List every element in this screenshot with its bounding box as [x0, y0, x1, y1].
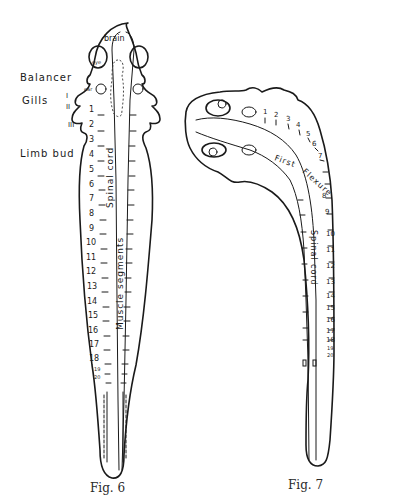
fig7-neural-tube-outer — [196, 118, 316, 460]
svg-text:17: 17 — [326, 327, 335, 335]
fig7-ear-upper — [242, 107, 256, 117]
fig7-lens-lower — [209, 148, 217, 156]
embryo-diagram: I II III brain eye ear 123 456 789 10111… — [0, 0, 399, 503]
svg-text:11: 11 — [86, 253, 96, 262]
svg-text:4: 4 — [89, 150, 94, 159]
svg-text:6: 6 — [89, 180, 94, 189]
svg-text:18: 18 — [326, 336, 335, 344]
fig7-label-first: First — [273, 153, 297, 169]
fig6-label-brain: brain — [104, 34, 125, 43]
fig6-label-limb-bud: Limb bud — [20, 148, 75, 159]
svg-text:9: 9 — [325, 208, 329, 216]
svg-text:3: 3 — [89, 135, 94, 144]
svg-text:17: 17 — [89, 340, 99, 349]
fig7-eye-lower — [202, 143, 226, 157]
svg-text:7: 7 — [318, 152, 322, 160]
svg-text:20: 20 — [327, 352, 333, 358]
svg-text:12: 12 — [326, 262, 335, 270]
fig6-label-ear: ear — [84, 86, 93, 92]
svg-text:10: 10 — [326, 230, 335, 238]
fig7-caption: Fig. 7 — [288, 478, 323, 492]
svg-text:1: 1 — [89, 105, 94, 114]
svg-text:9: 9 — [89, 224, 94, 233]
fig6-gill-numeral-1: I — [66, 92, 68, 100]
svg-text:11: 11 — [326, 246, 335, 254]
svg-text:4: 4 — [296, 121, 301, 129]
svg-text:20: 20 — [94, 374, 100, 380]
fig6-label-gills: Gills — [22, 95, 48, 106]
svg-text:2: 2 — [274, 111, 278, 119]
fig7-segment-ticks — [265, 118, 334, 340]
fig6-ear-right — [133, 84, 143, 94]
svg-text:7: 7 — [89, 194, 94, 203]
fig6-caption: Fig. 6 — [90, 481, 125, 495]
fig6-tail-segments — [104, 392, 126, 462]
svg-text:6: 6 — [312, 140, 317, 148]
svg-text:19: 19 — [94, 366, 100, 372]
svg-text:12: 12 — [86, 267, 96, 276]
fig6-gill-numeral-3: III — [68, 121, 74, 129]
fig7-tail-marker-left — [303, 360, 306, 366]
svg-text:16: 16 — [88, 326, 98, 335]
svg-text:14: 14 — [326, 292, 335, 300]
svg-text:3: 3 — [286, 115, 290, 123]
fig6-label-spinal-cord: Spinal cord — [105, 147, 115, 208]
svg-text:16: 16 — [326, 316, 335, 324]
fig6-ear-left — [96, 84, 106, 94]
svg-text:5: 5 — [306, 130, 310, 138]
fig7-label-spinal-cord: Spinal cord — [309, 230, 318, 286]
fig6-gill-numeral-2: II — [66, 103, 70, 111]
svg-text:8: 8 — [89, 209, 94, 218]
fig7-tail-marker-right — [313, 360, 316, 366]
fig6-label-balancer: Balancer — [20, 72, 72, 83]
svg-text:19: 19 — [327, 345, 333, 351]
svg-text:10: 10 — [86, 238, 96, 247]
fig6-label-eye: eye — [92, 59, 101, 66]
svg-text:13: 13 — [87, 282, 97, 291]
svg-text:2: 2 — [89, 120, 94, 129]
svg-text:1: 1 — [263, 108, 267, 116]
fig7-neural-tube-inner — [196, 132, 309, 460]
svg-text:13: 13 — [326, 278, 335, 286]
svg-text:5: 5 — [89, 165, 94, 174]
svg-text:14: 14 — [87, 297, 97, 306]
svg-text:18: 18 — [89, 354, 99, 363]
fig6-label-muscle-segments: Muscle segments — [115, 237, 125, 330]
svg-text:15: 15 — [88, 311, 98, 320]
svg-text:15: 15 — [326, 304, 335, 312]
